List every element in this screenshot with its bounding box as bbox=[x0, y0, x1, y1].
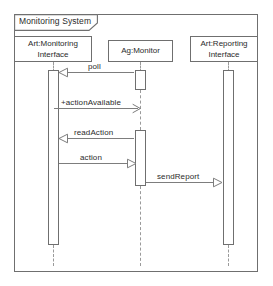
activation-bar-reporting-interface[interactable] bbox=[223, 70, 234, 245]
message-label-read-action: readAction bbox=[74, 128, 113, 137]
frame-label-tab: Monitoring System bbox=[14, 14, 98, 31]
lifeline-head-reporting-interface[interactable]: Art:Reporting Interface bbox=[190, 36, 258, 62]
message-line-poll bbox=[61, 72, 134, 73]
message-line-send-report bbox=[146, 182, 214, 183]
activation-bar-monitor-agent-poll[interactable] bbox=[135, 70, 146, 90]
lifeline-line-monitor-agent-tail bbox=[140, 186, 141, 266]
arrowhead-poll-icon bbox=[58, 67, 69, 78]
arrowhead-action-available-icon bbox=[130, 103, 142, 114]
message-label-send-report: sendReport bbox=[157, 172, 199, 181]
lifeline-line-reporting-interface-tail bbox=[228, 245, 229, 266]
lifeline-head-monitoring-interface[interactable]: Art:Monitoring Interface bbox=[14, 36, 92, 62]
message-line-action bbox=[59, 163, 134, 164]
lifeline-line-monitoring-interface-tail bbox=[53, 245, 54, 266]
sequence-diagram-canvas: Monitoring System Art:Monitoring Interfa… bbox=[0, 0, 273, 286]
message-label-poll: poll bbox=[88, 62, 101, 71]
arrowhead-action-icon bbox=[126, 158, 137, 169]
activation-bar-monitoring-interface[interactable] bbox=[48, 70, 59, 245]
message-label-action: action bbox=[80, 153, 102, 162]
lifeline-head-monitor-agent[interactable]: Ag:Monitor bbox=[108, 40, 173, 62]
arrowhead-send-report-icon bbox=[212, 177, 223, 188]
arrowhead-read-action-icon bbox=[58, 133, 69, 144]
message-line-read-action bbox=[61, 138, 134, 139]
message-label-action-available: +actionAvailable bbox=[61, 98, 121, 107]
message-line-action-available bbox=[54, 108, 138, 109]
frame-label-text: Monitoring System bbox=[19, 16, 91, 26]
